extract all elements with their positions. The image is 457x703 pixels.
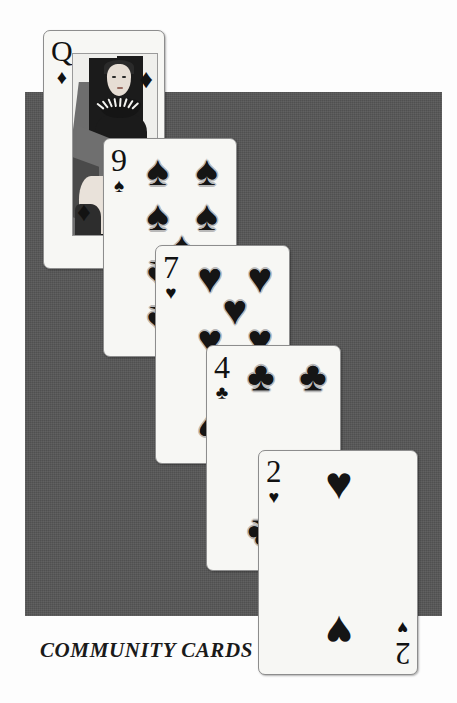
card-index-bottom-right: 2 ♥ — [395, 620, 411, 669]
card-rank: 2 — [395, 638, 411, 669]
club-icon: ♣ — [292, 356, 334, 397]
card-rank: Q — [51, 36, 73, 66]
spade-icon: ♠ — [111, 177, 127, 194]
card-index-top-left: 4 ♣ — [214, 351, 230, 401]
club-icon: ♣ — [240, 356, 282, 397]
figure-caption: COMMUNITY CARDS — [40, 638, 253, 663]
heart-icon: ♥ — [316, 461, 362, 507]
card-index-top-left: 7 ♥ — [163, 251, 179, 301]
card-index-top-left: 9 ♠ — [111, 144, 127, 194]
heart-icon: ♥ — [395, 620, 411, 636]
card-rank: 7 — [163, 251, 179, 283]
diamond-icon: ♦ — [77, 200, 91, 227]
card-rank: 9 — [111, 144, 127, 176]
card-index-top-left: Q ♦ — [51, 36, 73, 86]
card-rank: 2 — [266, 456, 282, 487]
card-rank: 4 — [214, 351, 230, 383]
playing-card-two-of-hearts[interactable]: 2 ♥ 2 ♥ ♥ ♥ — [258, 450, 418, 675]
spade-icon: ♠ — [137, 151, 179, 192]
spade-icon: ♠ — [186, 151, 228, 192]
card-index-top-left: 2 ♥ — [266, 456, 282, 505]
heart-icon: ♥ — [266, 489, 282, 505]
community-cards-figure: Q ♦ — [0, 0, 457, 703]
diamond-icon: ♦ — [51, 68, 73, 86]
diamond-icon: ♦ — [139, 66, 153, 93]
heart-icon: ♥ — [316, 608, 362, 654]
heart-icon: ♥ — [163, 284, 179, 301]
club-icon: ♣ — [214, 384, 230, 401]
